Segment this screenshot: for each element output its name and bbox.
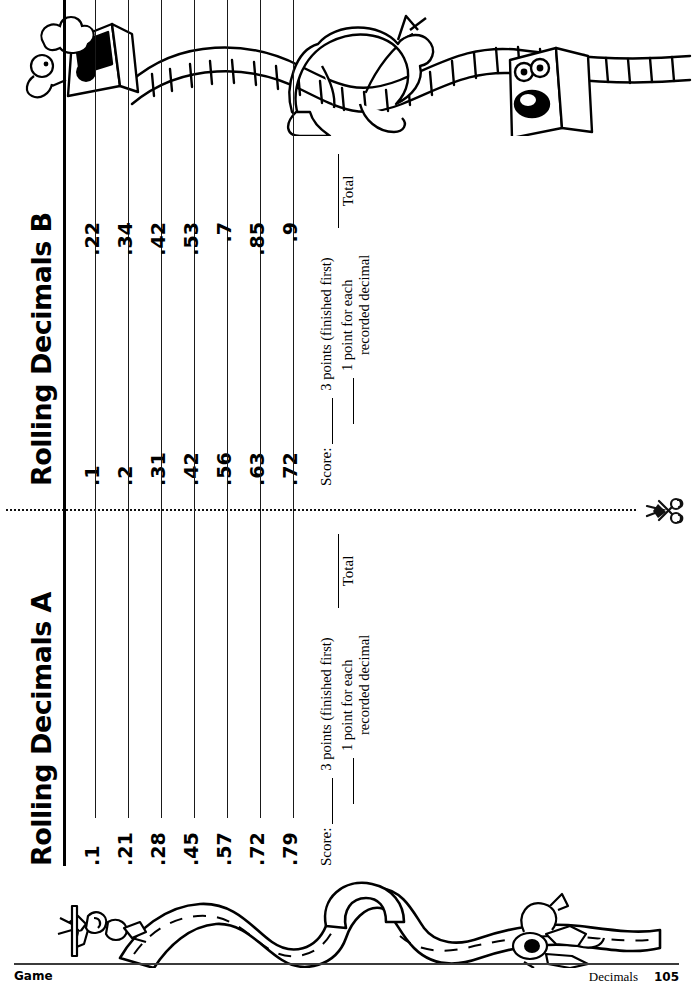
score-per-decimal-line2: recorded decimal — [356, 635, 373, 751]
footer-page-number: 105 — [654, 970, 679, 984]
score-per-decimal-line1: 1 point for each — [339, 660, 355, 751]
answer-blank[interactable] — [194, 270, 195, 818]
answer-blank[interactable] — [161, 270, 162, 818]
row-right-value: .22 — [81, 222, 103, 264]
total-label: Total — [339, 154, 357, 228]
panel-a-score-block: Score: 3 points (finished first) 1 point… — [318, 222, 372, 866]
row-right-value: .9 — [279, 222, 301, 264]
table-row: .21 .34 — [111, 222, 139, 866]
answer-blank[interactable] — [95, 270, 96, 818]
table-row: .79 .9 — [276, 222, 304, 866]
row-left-value: .28 — [147, 824, 169, 866]
footer-divider — [14, 963, 679, 965]
score-per-decimal-text: 1 point for each recorded decimal — [339, 635, 373, 751]
winding-road-artwork — [0, 872, 693, 968]
row-left-value: .57 — [213, 824, 235, 866]
total-blank[interactable] — [322, 534, 339, 608]
row-right-value: .53 — [180, 222, 202, 264]
table-row: .28 .42 — [144, 222, 172, 866]
panel-b-total: Total — [322, 154, 357, 228]
panel-b-title: Rolling Decimals B — [26, 212, 57, 486]
row-right-value: .85 — [246, 222, 268, 264]
answer-blank[interactable] — [293, 270, 294, 818]
table-row: .45 .53 — [177, 222, 205, 866]
footer-subject-label: Decimals — [589, 969, 638, 985]
row-left-value: .72 — [246, 824, 268, 866]
table-row: .1 .22 — [78, 222, 106, 866]
row-right-value: .42 — [147, 222, 169, 264]
score-first-place-text: 3 points (finished first) — [318, 637, 335, 770]
total-label: Total — [339, 534, 357, 608]
row-right-value: .7 — [213, 222, 235, 264]
answer-blank[interactable] — [128, 270, 129, 818]
panel-a-title: Rolling Decimals A — [26, 592, 57, 866]
page-footer: Game Decimals 105 — [14, 963, 679, 989]
total-blank[interactable] — [322, 154, 339, 228]
row-left-value: .45 — [180, 824, 202, 866]
answer-blank[interactable] — [260, 270, 261, 818]
row-left-value: .21 — [114, 824, 136, 866]
bottom-illustration-road — [0, 872, 693, 968]
worksheet-panel-a: Rolling Decimals A .1 .22 .21 .34 .28 .4… — [22, 516, 666, 866]
table-row: .57 .7 — [210, 222, 238, 866]
score-label: Score: — [318, 828, 335, 866]
score-blank-per-decimal[interactable] — [339, 758, 354, 804]
answer-blank[interactable] — [227, 270, 228, 818]
panel-a-title-rule — [63, 222, 66, 866]
table-row: .72 .85 — [243, 222, 271, 866]
panel-a-rows: .1 .22 .21 .34 .28 .42 .45 .53 .57 — [78, 222, 310, 866]
row-left-value: .79 — [279, 824, 301, 866]
panel-a-total: Total — [322, 534, 357, 608]
row-left-value: .1 — [81, 824, 103, 866]
row-right-value: .34 — [114, 222, 136, 264]
score-blank-first-place[interactable] — [318, 778, 333, 824]
footer-category-label: Game — [14, 969, 53, 983]
